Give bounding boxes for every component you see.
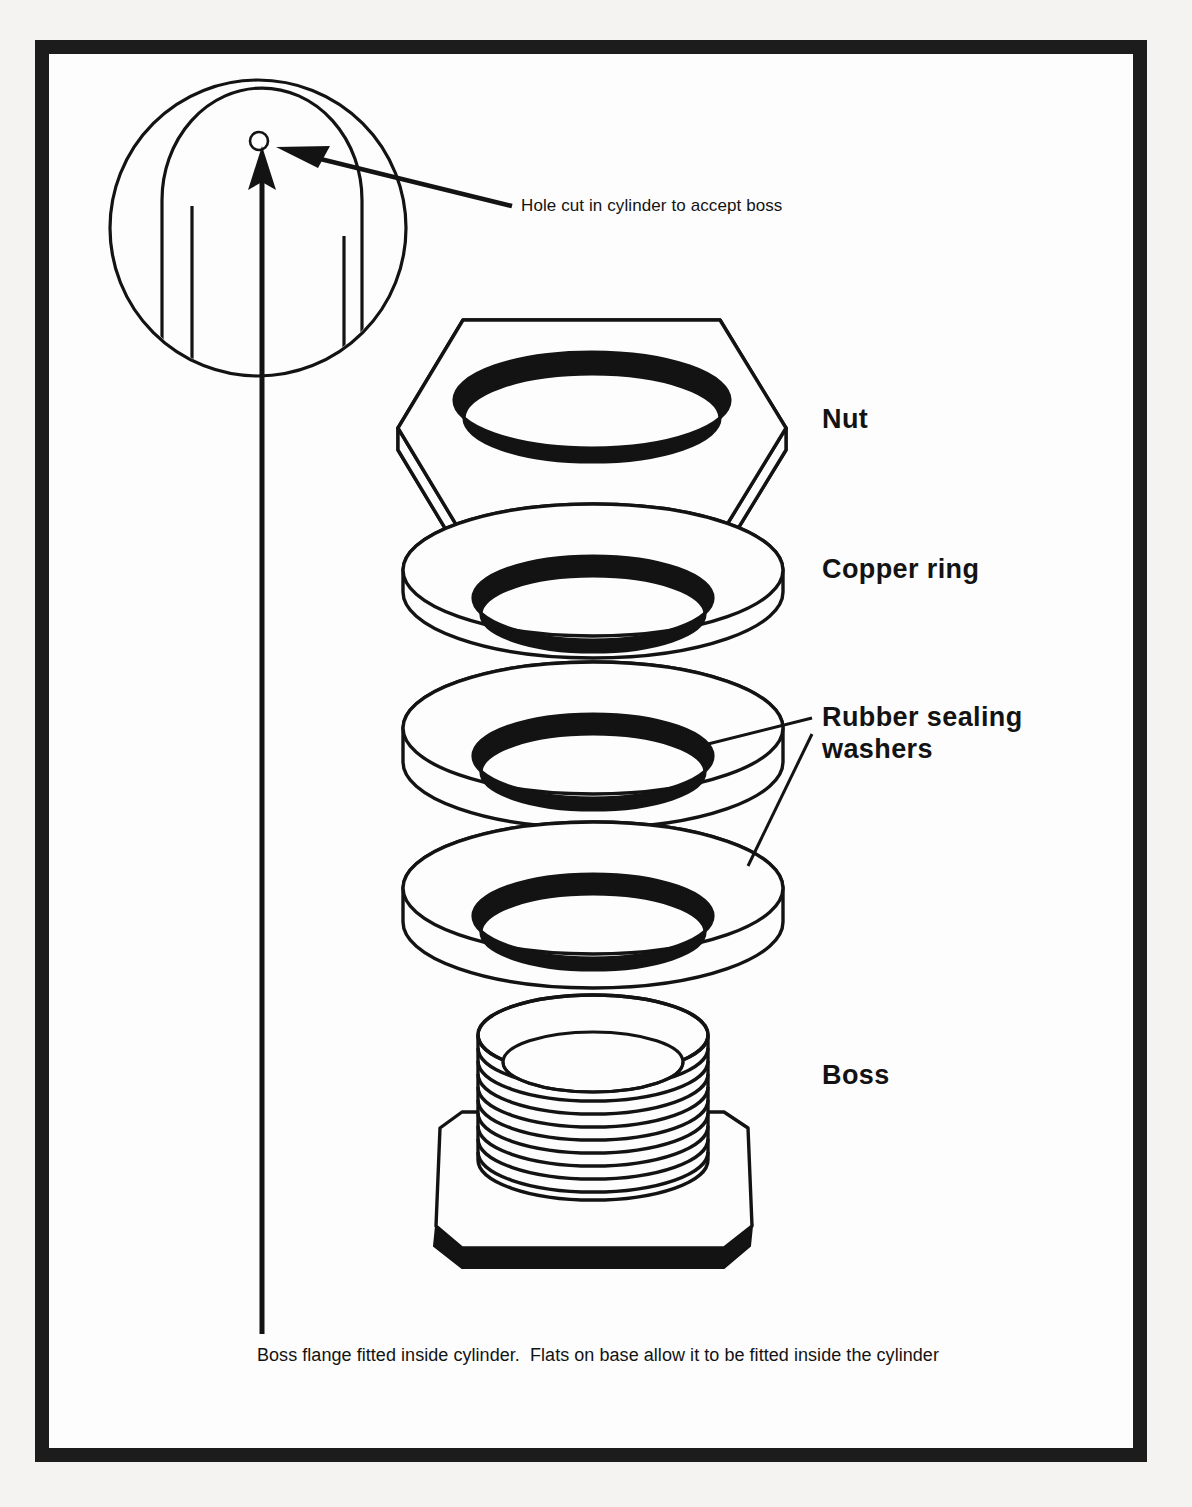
part-label-copper-ring: Copper ring (822, 554, 979, 586)
annotation-hole-note: Hole cut in cylinder to accept boss (521, 196, 782, 216)
copper-ring-part (403, 504, 783, 658)
rubber-washer-lower-part (403, 822, 783, 988)
figure-caption: Boss flange fitted inside cylinder. Flat… (257, 1345, 939, 1366)
part-label-nut: Nut (822, 404, 868, 436)
hole-note-arrow-head (276, 146, 330, 168)
part-label-rubber-sealing-washers: Rubber sealing washers (822, 702, 1023, 766)
boss-part (434, 995, 752, 1268)
hole-in-cylinder (250, 132, 268, 150)
cylinder-hole-detail-view (110, 80, 406, 400)
caption-to-hole-arrow (248, 146, 276, 1334)
rubber-washer-upper-part (403, 662, 783, 828)
hole-note-leader-arrow (276, 146, 512, 206)
part-label-boss: Boss (822, 1060, 890, 1092)
figure-page: Nut Copper ring Rubber sealing washers B… (0, 0, 1192, 1507)
